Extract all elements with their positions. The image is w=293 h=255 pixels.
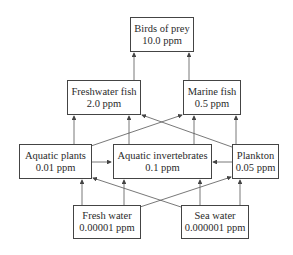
node-sea-water: Sea water 0.000001 ppm [181,205,249,239]
node-aquatic-invertebrates: Aquatic invertebrates 0.1 ppm [113,144,212,179]
node-value: 0.01 ppm [36,162,76,174]
node-marine-fish: Marine fish 0.5 ppm [183,80,241,115]
node-value: 0.05 ppm [236,162,276,174]
node-name: Plankton [237,150,274,162]
node-name: Freshwater fish [71,86,136,98]
node-value: 0.5 ppm [195,98,229,110]
node-name: Fresh water [82,210,131,222]
node-value: 0.1 ppm [145,162,179,174]
node-name: Marine fish [188,86,237,98]
node-aquatic-plants: Aquatic plants 0.01 ppm [19,144,92,179]
node-value: 2.0 ppm [87,98,121,110]
node-value: 10.0 ppm [142,35,182,47]
node-freshwater-fish: Freshwater fish 2.0 ppm [67,80,141,115]
node-value: 0.000001 ppm [185,222,246,234]
node-name: Sea water [194,210,235,222]
node-name: Birds of prey [134,23,189,35]
node-value: 0.00001 ppm [79,222,134,234]
node-name: Aquatic invertebrates [117,150,207,162]
node-birds-of-prey: Birds of prey 10.0 ppm [130,17,194,52]
node-plankton: Plankton 0.05 ppm [232,144,279,179]
node-name: Aquatic plants [25,150,86,162]
food-chain-diagram: Birds of prey 10.0 ppm Freshwater fish 2… [0,0,293,255]
node-fresh-water: Fresh water 0.00001 ppm [73,205,141,239]
